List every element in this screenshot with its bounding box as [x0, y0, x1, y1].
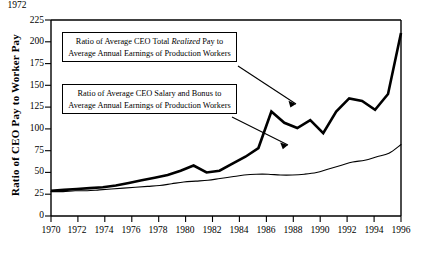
arrow-realized-pay: [238, 66, 296, 108]
annotation-salary-line1: Ratio of Average CEO Salary and Bonus to: [68, 88, 231, 100]
y-axis-ticks: [45, 20, 51, 216]
annotation-box-realized-pay: Ratio of Average CEO Total Realized Pay …: [62, 32, 237, 62]
annotation-realized-line2: Average Annual Earnings of Production Wo…: [68, 48, 231, 60]
annotation-salary-line2: Average Annual Earnings of Production Wo…: [68, 100, 231, 112]
annotation-realized-line1: Ratio of Average CEO Total Realized Pay …: [68, 36, 231, 48]
annotation-box-salary-bonus: Ratio of Average CEO Salary and Bonus to…: [62, 84, 237, 114]
x-axis-ticks: [51, 216, 401, 222]
chart-figure: Ratio of CEO Pay to Worker Pay 225 200 1…: [0, 0, 442, 255]
